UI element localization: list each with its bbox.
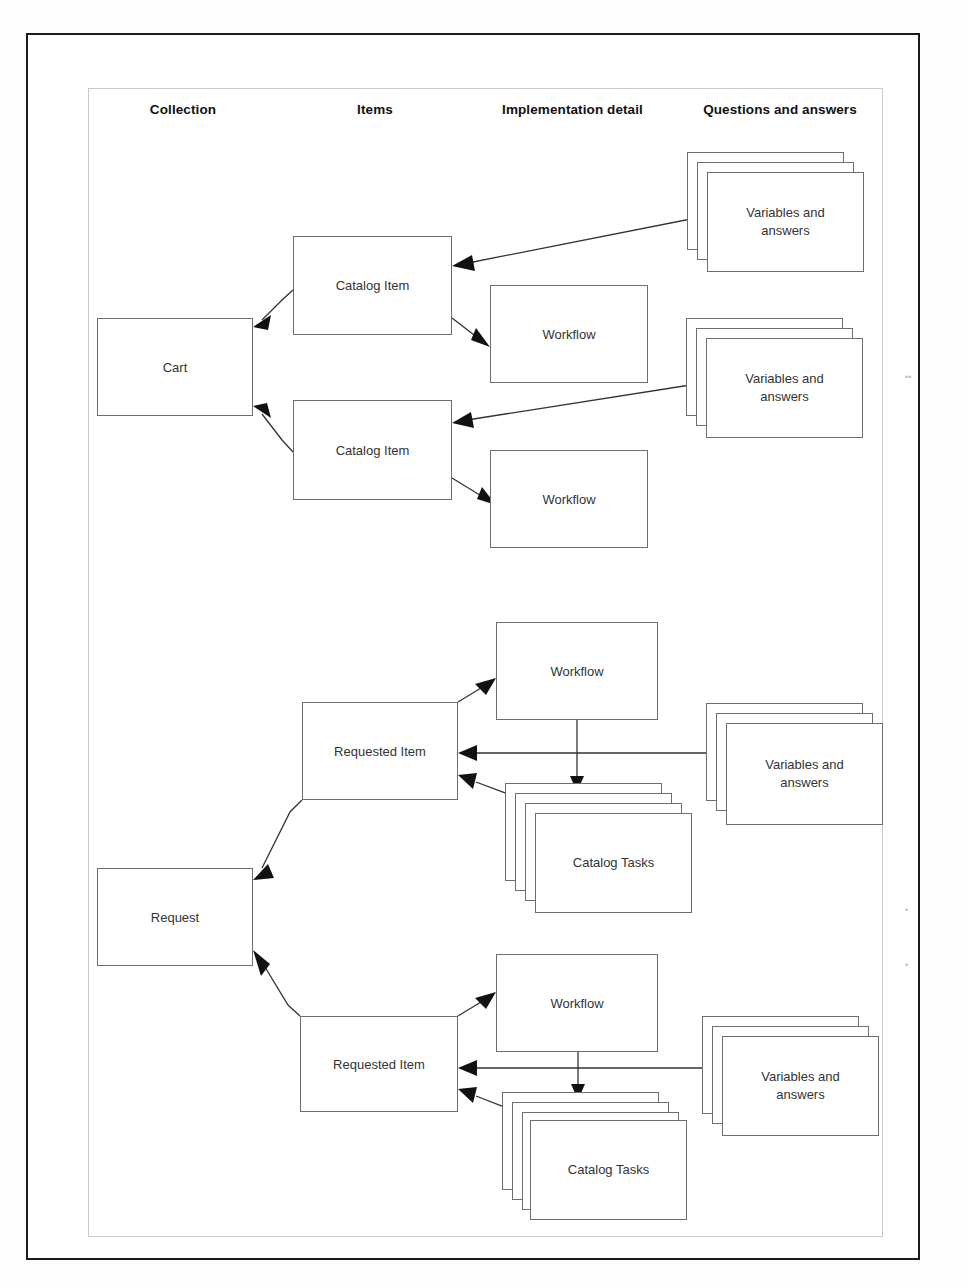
edge-catalog-item-1-to-workflow-1 [452,318,490,347]
node-variables-1-stack[interactable]: Variables and answers [687,152,882,277]
node-catalog-item-2[interactable]: Catalog Item [293,400,452,500]
node-catalog-item-1[interactable]: Catalog Item [293,236,452,335]
scan-artifact-upper: •• [905,372,911,382]
node-cart[interactable]: Cart [97,318,253,416]
edge-catalog-item-2-to-cart [253,403,293,452]
scan-artifact-mid: • [905,960,908,970]
node-variables-4[interactable]: Variables and answers [722,1036,879,1136]
node-variables-4-stack[interactable]: Variables and answers [702,1016,897,1146]
node-catalog-tasks-2-stack[interactable]: Catalog Tasks [502,1092,717,1232]
scan-artifact-lower: • [905,905,908,915]
edge-variables-4-to-requested-item-2 [458,1060,722,1076]
node-catalog-tasks-1-stack[interactable]: Catalog Tasks [505,783,720,923]
edge-catalog-item-1-to-cart [253,290,293,330]
edge-workflow-3-to-catalog-tasks-1 [570,720,584,792]
node-variables-3-stack[interactable]: Variables and answers [706,703,901,833]
node-workflow-3[interactable]: Workflow [496,622,658,720]
node-catalog-tasks-1[interactable]: Catalog Tasks [535,813,692,913]
node-variables-2[interactable]: Variables and answers [706,338,863,438]
node-catalog-tasks-2[interactable]: Catalog Tasks [530,1120,687,1220]
edge-variables-3-to-requested-item-1 [458,745,706,761]
node-variables-1[interactable]: Variables and answers [707,172,864,272]
node-request[interactable]: Request [97,868,253,966]
edge-requested-item-2-to-request [253,950,300,1016]
edge-requested-item-1-to-request [253,800,302,880]
node-workflow-1[interactable]: Workflow [490,285,648,383]
diagram-page: Collection Items Implementation detail Q… [0,0,967,1287]
edge-variables-1-to-catalog-item-1 [452,216,706,271]
node-requested-item-2[interactable]: Requested Item [300,1016,458,1112]
node-variables-3[interactable]: Variables and answers [726,723,883,825]
node-variables-2-stack[interactable]: Variables and answers [686,318,881,443]
edge-requested-item-2-to-workflow-4 [458,992,496,1016]
edge-requested-item-1-to-workflow-3 [458,678,496,702]
node-requested-item-1[interactable]: Requested Item [302,702,458,800]
edge-variables-2-to-catalog-item-2 [452,383,703,428]
node-workflow-2[interactable]: Workflow [490,450,648,548]
node-workflow-4[interactable]: Workflow [496,954,658,1052]
